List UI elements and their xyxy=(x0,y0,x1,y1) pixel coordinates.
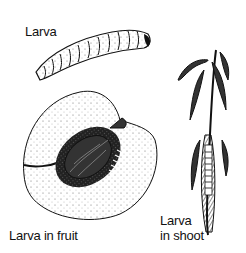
larva-in-shoot-label-line1: Larva xyxy=(160,213,192,228)
fruit-drawing xyxy=(23,91,156,219)
shoot-drawing xyxy=(178,50,229,235)
larva-in-shoot-label-line2: in shoot xyxy=(160,228,204,243)
larva-label: Larva xyxy=(25,24,57,39)
larva-in-fruit-label: Larva in fruit xyxy=(9,228,78,243)
